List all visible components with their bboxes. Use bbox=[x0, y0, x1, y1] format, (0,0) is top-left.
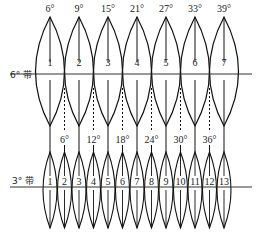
three-degree-zone-number: 9 bbox=[164, 176, 169, 187]
six-degree-zone-number: 3 bbox=[106, 57, 111, 68]
three-degree-zone-number: 7 bbox=[135, 176, 140, 187]
three-degree-zone-number: 12 bbox=[205, 176, 215, 187]
six-degree-zone-numbers: 1234567 bbox=[48, 57, 227, 68]
six-degree-zone-number: 2 bbox=[77, 57, 82, 68]
three-degree-zone-number: 4 bbox=[91, 176, 96, 187]
three-degree-zone-number: 1 bbox=[48, 176, 53, 187]
three-degree-zone-number: 11 bbox=[190, 176, 200, 187]
three-degree-boundary-label: 24° bbox=[145, 134, 159, 145]
six-degree-top-label: 9° bbox=[75, 3, 84, 14]
three-degree-zone-number: 5 bbox=[106, 176, 111, 187]
six-degree-zone-number: 4 bbox=[135, 57, 140, 68]
three-degree-band-label: 3° 带 bbox=[12, 176, 34, 186]
three-degree-boundary-labels: 6°12°18°24°30°36° bbox=[60, 134, 217, 145]
three-degree-zone-number: 13 bbox=[219, 176, 229, 187]
six-degree-zone-number: 7 bbox=[222, 57, 227, 68]
six-degree-top-label: 6° bbox=[46, 3, 55, 14]
six-degree-band-label: 6° 带 bbox=[10, 70, 32, 80]
three-degree-zone-number: 2 bbox=[62, 176, 67, 187]
three-degree-zone-number: 3 bbox=[77, 176, 82, 187]
six-degree-top-label: 33° bbox=[188, 3, 202, 14]
three-degree-boundary-label: 6° bbox=[60, 134, 69, 145]
three-degree-zone-number: 6 bbox=[120, 176, 125, 187]
three-degree-zone-number: 8 bbox=[149, 176, 154, 187]
zone-diagram: 6° 带 3° 带 6°9°15°21°27°33°39° 1234567 6°… bbox=[0, 0, 262, 241]
six-degree-top-label: 27° bbox=[159, 3, 173, 14]
three-degree-boundary-label: 30° bbox=[174, 134, 188, 145]
six-degree-top-labels: 6°9°15°21°27°33°39° bbox=[46, 3, 232, 14]
three-degree-boundary-label: 36° bbox=[203, 134, 217, 145]
six-degree-top-label: 21° bbox=[130, 3, 144, 14]
three-degree-boundary-label: 18° bbox=[116, 134, 130, 145]
three-degree-zone-number: 10 bbox=[176, 176, 186, 187]
six-degree-zone-number: 6 bbox=[193, 57, 198, 68]
six-degree-zone-number: 1 bbox=[48, 57, 53, 68]
six-degree-lenses bbox=[36, 17, 239, 152]
three-degree-boundary-label: 12° bbox=[87, 134, 101, 145]
six-degree-top-label: 39° bbox=[217, 3, 231, 14]
six-degree-zone-number: 5 bbox=[164, 57, 169, 68]
six-degree-top-label: 15° bbox=[101, 3, 115, 14]
